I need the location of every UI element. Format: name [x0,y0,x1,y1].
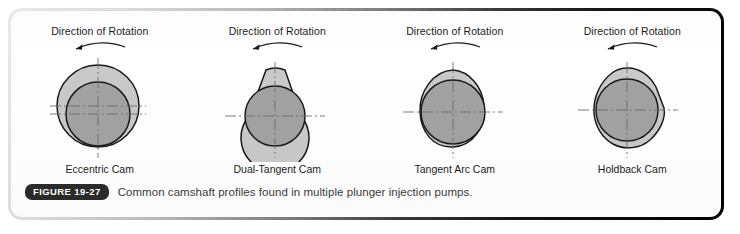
rotation-label: Direction of Rotation [584,25,681,37]
curved-arrow-left-icon [602,39,662,53]
cam-diagram-dual-tangent: Direction of Rotation [193,25,361,175]
figure-frame-border: Direction of Rotation [8,8,724,220]
figure-frame-inner: Direction of Rotation [11,11,721,217]
cam-profile-dual-tangent-shape [217,54,337,162]
cam-profile-eccentric-shape [40,54,160,162]
figure-caption-text: Common camshaft profiles found in multip… [118,186,473,198]
cam-profile-tangent-arc-shape [395,54,515,162]
figure-number-badge: FIGURE 19-27 [25,184,109,201]
cam-diagram-holdback: Direction of Rotation Hol [548,25,716,175]
figure-caption: FIGURE 19-27 Common camshaft profiles fo… [25,184,473,201]
cam-diagram-tangent-arc: Direction of Rotation Tan [371,25,539,175]
curved-arrow-left-icon [70,39,130,53]
rotation-label: Direction of Rotation [229,25,326,37]
rotation-label: Direction of Rotation [406,25,503,37]
rotation-label: Direction of Rotation [51,25,148,37]
cam-name-label: Holdback Cam [598,163,667,175]
curved-arrow-left-icon [425,39,485,53]
figure-container: Direction of Rotation [0,0,740,234]
cam-name-label: Tangent Arc Cam [414,163,495,175]
cam-name-label: Dual-Tangent Cam [233,163,321,175]
cam-name-label: Eccentric Cam [66,163,134,175]
cam-profile-holdback-shape [572,54,692,162]
curved-arrow-left-icon [247,39,307,53]
cam-profiles-row: Direction of Rotation [11,25,721,165]
cam-diagram-eccentric: Direction of Rotation [16,25,184,175]
